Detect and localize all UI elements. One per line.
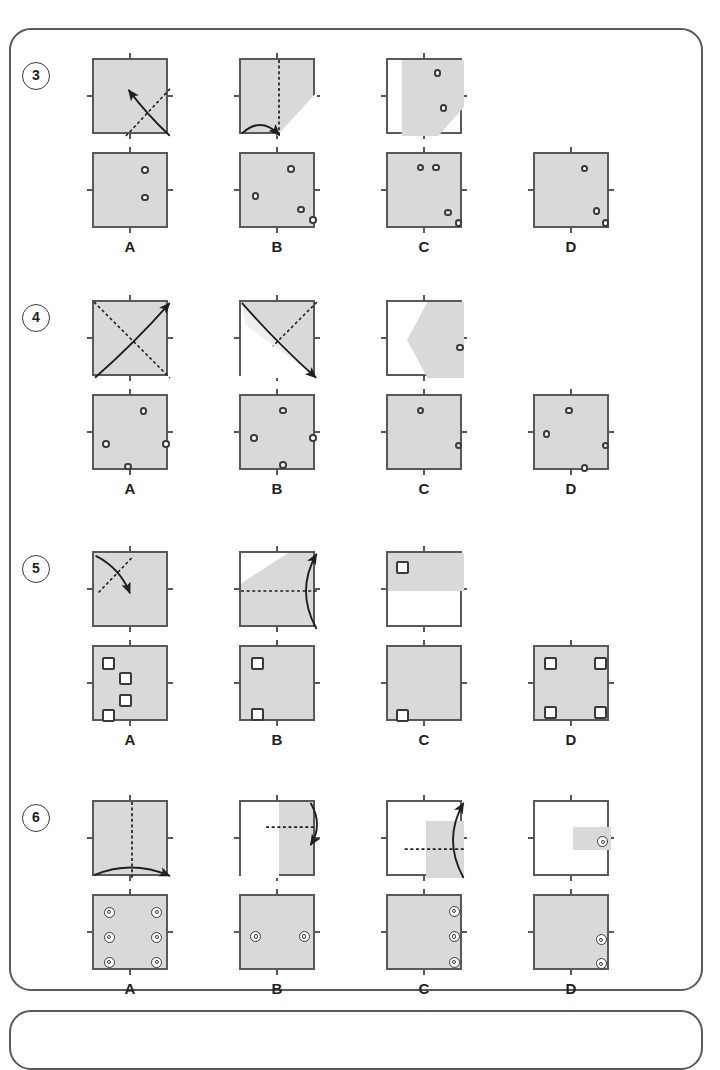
tick-b bbox=[423, 968, 425, 975]
option-label-6-B[interactable]: B bbox=[222, 980, 332, 997]
punched-ring-mark bbox=[104, 957, 115, 968]
answer-square-3-A[interactable] bbox=[92, 152, 168, 228]
option-label-4-C[interactable]: C bbox=[369, 480, 479, 497]
tick-t bbox=[570, 640, 572, 647]
tick-b bbox=[129, 226, 131, 233]
fold-diagram-5-C bbox=[386, 551, 462, 627]
tick-b bbox=[129, 374, 131, 381]
tick-r bbox=[313, 931, 320, 933]
option-label-3-B[interactable]: B bbox=[222, 238, 332, 255]
tick-b bbox=[423, 874, 425, 881]
tick-b bbox=[129, 625, 131, 632]
punched-ring-mark bbox=[151, 907, 162, 918]
tick-b bbox=[276, 374, 278, 381]
fold-overlay bbox=[94, 802, 170, 878]
tick-b bbox=[570, 968, 572, 975]
option-label-3-A[interactable]: A bbox=[75, 238, 185, 255]
answer-square-6-D[interactable] bbox=[533, 894, 609, 970]
punched-circle-mark bbox=[309, 216, 317, 224]
answer-square-4-D[interactable] bbox=[533, 394, 609, 470]
punched-circle-mark bbox=[440, 104, 448, 112]
answer-square-5-B[interactable] bbox=[239, 645, 315, 721]
tick-t bbox=[276, 889, 278, 896]
punched-square-mark bbox=[594, 706, 607, 719]
tick-t bbox=[129, 389, 131, 396]
tick-r bbox=[460, 189, 467, 191]
tick-t bbox=[276, 53, 278, 60]
tick-l bbox=[87, 682, 94, 684]
punched-ring-mark bbox=[449, 906, 460, 917]
punched-circle-mark bbox=[250, 434, 258, 442]
answer-square-3-C[interactable] bbox=[386, 152, 462, 228]
option-label-3-D[interactable]: D bbox=[516, 238, 626, 255]
punched-ring-mark bbox=[596, 934, 607, 945]
tick-l bbox=[87, 431, 94, 433]
tick-r bbox=[460, 588, 467, 590]
punched-square-mark bbox=[119, 672, 132, 685]
punched-circle-mark bbox=[141, 166, 149, 174]
option-label-3-C[interactable]: C bbox=[369, 238, 479, 255]
tick-b bbox=[276, 874, 278, 881]
answer-square-5-D[interactable] bbox=[533, 645, 609, 721]
punched-ring-mark bbox=[449, 957, 460, 968]
punched-circle-mark bbox=[162, 440, 170, 448]
tick-l bbox=[528, 837, 535, 839]
tick-l bbox=[234, 588, 241, 590]
answer-square-4-A[interactable] bbox=[92, 394, 168, 470]
answer-square-3-D[interactable] bbox=[533, 152, 609, 228]
tick-l bbox=[234, 95, 241, 97]
tick-b bbox=[570, 468, 572, 475]
punched-circle-mark bbox=[455, 219, 463, 227]
punched-circle-mark bbox=[279, 461, 287, 469]
option-label-5-B[interactable]: B bbox=[222, 731, 332, 748]
answer-square-5-C[interactable] bbox=[386, 645, 462, 721]
punched-ring-mark bbox=[596, 958, 607, 969]
option-label-4-A[interactable]: A bbox=[75, 480, 185, 497]
answer-square-6-B[interactable] bbox=[239, 894, 315, 970]
answer-square-3-B[interactable] bbox=[239, 152, 315, 228]
option-label-6-A[interactable]: A bbox=[75, 980, 185, 997]
tick-l bbox=[87, 189, 94, 191]
punched-square-mark bbox=[396, 561, 409, 574]
tick-b bbox=[276, 719, 278, 726]
punched-ring-mark bbox=[250, 931, 261, 942]
tick-t bbox=[423, 295, 425, 302]
punched-ring-mark bbox=[104, 907, 115, 918]
punched-circle-mark bbox=[434, 69, 442, 77]
tick-t bbox=[276, 795, 278, 802]
punched-circle-mark bbox=[417, 164, 425, 172]
tick-t bbox=[423, 795, 425, 802]
tick-l bbox=[528, 431, 535, 433]
answer-square-6-C[interactable] bbox=[386, 894, 462, 970]
option-label-5-C[interactable]: C bbox=[369, 731, 479, 748]
answer-square-4-C[interactable] bbox=[386, 394, 462, 470]
tick-r bbox=[313, 431, 320, 433]
tick-t bbox=[423, 640, 425, 647]
option-label-4-B[interactable]: B bbox=[222, 480, 332, 497]
tick-l bbox=[381, 337, 388, 339]
fold-diagram-3-A bbox=[92, 58, 168, 134]
option-label-6-D[interactable]: D bbox=[516, 980, 626, 997]
tick-l bbox=[528, 931, 535, 933]
punched-ring-mark bbox=[104, 932, 115, 943]
answer-square-6-A[interactable] bbox=[92, 894, 168, 970]
punched-circle-mark bbox=[455, 442, 463, 450]
option-label-5-A[interactable]: A bbox=[75, 731, 185, 748]
punched-circle-mark bbox=[140, 407, 148, 415]
option-label-5-D[interactable]: D bbox=[516, 731, 626, 748]
punched-circle-mark bbox=[581, 165, 589, 173]
tick-t bbox=[570, 889, 572, 896]
answer-square-4-B[interactable] bbox=[239, 394, 315, 470]
punched-ring-mark bbox=[151, 957, 162, 968]
answer-square-5-A[interactable] bbox=[92, 645, 168, 721]
tick-r bbox=[607, 189, 614, 191]
fold-overlay bbox=[388, 802, 464, 878]
tick-r bbox=[166, 837, 173, 839]
tick-l bbox=[381, 189, 388, 191]
punched-square-mark bbox=[396, 709, 409, 722]
tick-t bbox=[423, 389, 425, 396]
tick-l bbox=[234, 931, 241, 933]
option-label-6-C[interactable]: C bbox=[369, 980, 479, 997]
tick-t bbox=[129, 640, 131, 647]
option-label-4-D[interactable]: D bbox=[516, 480, 626, 497]
